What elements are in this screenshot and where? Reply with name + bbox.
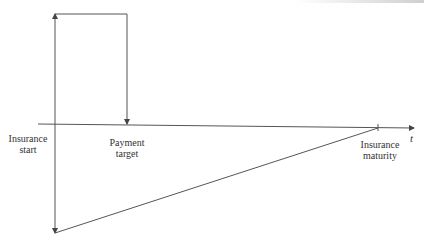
label-line: maturity xyxy=(352,150,408,161)
label-line: start xyxy=(2,144,54,155)
insurance-start-label: Insurance start xyxy=(2,133,54,155)
payment-target-label: Payment target xyxy=(100,137,154,159)
time-axis xyxy=(38,124,414,128)
label-line: Insurance xyxy=(2,133,54,144)
label-line: target xyxy=(100,148,154,159)
cash-flow-diagram xyxy=(0,0,424,244)
insurance-maturity-label: Insurance maturity xyxy=(352,139,408,161)
label-line: Payment xyxy=(100,137,154,148)
time-axis-label: t xyxy=(410,132,413,144)
label-line: Insurance xyxy=(352,139,408,150)
